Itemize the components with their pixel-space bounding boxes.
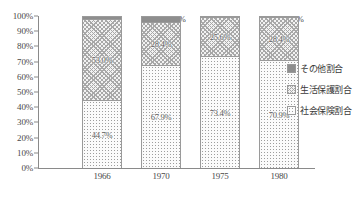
legend-item-label: その他割合	[300, 62, 343, 75]
bar-1966: 53.0%44.7%2.3%	[82, 16, 122, 168]
bar-segment-welfare: 25.6%	[200, 17, 240, 56]
stacked-bar-chart: 100%90%80%70%60%50%40%30%20%10%0% 53.0%4…	[0, 0, 364, 202]
y-axis-tick-mark	[34, 107, 38, 108]
y-axis-tick-mark	[34, 92, 38, 93]
x-axis-tick-label: 1980	[249, 171, 309, 181]
bar-segment-welfare: 28.4%	[141, 22, 181, 65]
chart-legend: その他割合生活保護割合社会保険割合	[287, 62, 351, 117]
legend-item-label: 生活保護割合	[300, 83, 351, 96]
segment-value-label: 67.9%	[151, 112, 171, 122]
legend-item[interactable]: その他割合	[287, 62, 351, 75]
bar-segment-insurance: 73.4%	[200, 56, 240, 168]
segment-value-label: 25.6%	[210, 32, 230, 42]
segment-value-label: 53.0%	[92, 55, 112, 65]
bar-1975: 25.6%73.4%0.9%	[200, 16, 240, 168]
x-axis-tick-label: 1975	[190, 171, 250, 181]
legend-item-label: 社会保険割合	[300, 104, 351, 117]
y-axis-tick-mark	[34, 16, 38, 17]
y-axis-tick-mark	[34, 46, 38, 47]
bar-segment-insurance: 67.9%	[141, 65, 181, 168]
x-axis-tick-label: 1966	[72, 171, 132, 181]
solid-gray-swatch	[287, 64, 296, 73]
x-axis-line	[38, 168, 315, 169]
y-axis-tick-mark	[34, 76, 38, 77]
segment-value-label: 28.4%	[269, 34, 289, 44]
y-axis-tick-mark	[34, 137, 38, 138]
y-axis-tick-mark	[34, 31, 38, 32]
bar-segment-insurance: 44.7%	[82, 100, 122, 168]
y-axis-tick-mark	[34, 152, 38, 153]
plot-area: 100%90%80%70%60%50%40%30%20%10%0% 53.0%4…	[38, 16, 276, 168]
bar-1970: 28.4%67.9%3.8%	[141, 16, 181, 168]
x-axis-tick-label: 1970	[131, 171, 191, 181]
crosshatch-swatch	[287, 85, 296, 94]
bar-segment-welfare: 28.4%	[259, 17, 299, 60]
y-axis-tick-mark	[34, 122, 38, 123]
legend-item[interactable]: 生活保護割合	[287, 83, 351, 96]
legend-item[interactable]: 社会保険割合	[287, 104, 351, 117]
segment-value-label: 44.7%	[92, 130, 112, 140]
y-axis-tick-mark	[34, 61, 38, 62]
segment-value-label: 28.4%	[151, 39, 171, 49]
bar-segment-welfare: 53.0%	[82, 19, 122, 100]
dotted-swatch	[287, 106, 296, 115]
y-axis-tick-mark	[34, 168, 38, 169]
segment-value-label: 73.4%	[210, 108, 230, 118]
